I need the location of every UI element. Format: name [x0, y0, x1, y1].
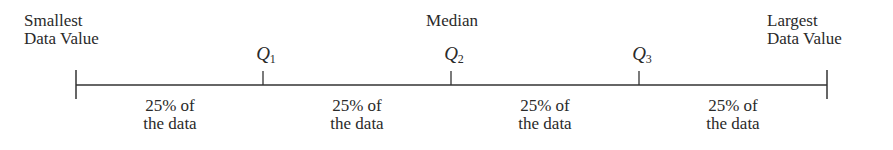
largest-label-line2: Data Value: [767, 30, 842, 48]
largest-label: Largest Data Value: [767, 12, 842, 48]
q3-label: Q3: [632, 45, 652, 68]
smallest-label: Smallest Data Value: [24, 12, 99, 48]
largest-label-line1: Largest: [767, 12, 842, 30]
segment-4-label: 25% ofthe data: [706, 97, 759, 133]
segment-1-label: 25% ofthe data: [143, 97, 196, 133]
segment-3-label: 25% ofthe data: [518, 97, 571, 133]
smallest-label-line2: Data Value: [24, 30, 99, 48]
q1-label: Q1: [256, 45, 276, 68]
q2-label: Q2: [444, 45, 464, 68]
smallest-label-line1: Smallest: [24, 12, 99, 30]
median-label: Median: [426, 12, 478, 30]
segment-2-label: 25% ofthe data: [330, 97, 383, 133]
